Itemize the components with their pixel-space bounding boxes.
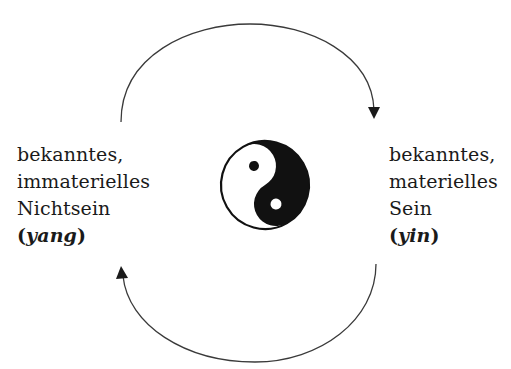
top-arrow-arc [121,24,374,122]
bottom-arrow-head-icon [116,266,128,279]
term-yin: yin [398,224,430,246]
paren-open: ( [17,224,26,246]
right-label-line-2: materielles [389,168,498,195]
yin-yang-icon [205,125,325,245]
paren-close: ) [77,224,86,246]
left-label-line-1: bekanntes, [17,141,150,168]
paren-close: ) [430,224,439,246]
right-label-yin: bekanntes, materielles Sein (yin) [389,141,498,249]
bottom-arrow-arc [123,264,376,362]
left-label-line-2: immaterielles [17,168,150,195]
yin-yang-cycle-diagram: bekanntes, immaterielles Nichtsein (yang… [0,0,511,369]
paren-open: ( [389,224,398,246]
right-label-line-1: bekanntes, [389,141,498,168]
left-label-yang: bekanntes, immaterielles Nichtsein (yang… [17,141,150,249]
top-arrow-head-icon [368,107,380,119]
left-label-line-3: Nichtsein [17,195,150,222]
right-label-line-3: Sein [389,195,498,222]
term-yang: yang [26,224,77,246]
left-label-term: (yang) [17,222,150,249]
right-label-term: (yin) [389,222,498,249]
